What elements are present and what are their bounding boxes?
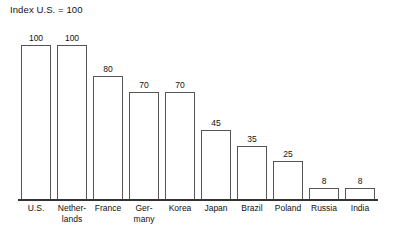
x-axis-tick-labels: U.S.Nether- landsFranceGer- manyKoreaJap… — [18, 203, 378, 239]
bar-korea: 70 — [165, 28, 195, 200]
bar-u-s: 100 — [21, 28, 51, 200]
bar-rect — [273, 161, 303, 200]
x-tick-brazil: Brazil — [234, 203, 270, 214]
bar-value-label: 8 — [322, 176, 327, 186]
bar-rect — [21, 45, 51, 200]
bar-rect — [165, 92, 195, 201]
bar-value-label: 100 — [65, 33, 79, 43]
bar-germany: 70 — [129, 28, 159, 200]
x-tick-korea: Korea — [162, 203, 198, 214]
x-tick-france: France — [90, 203, 126, 214]
bar-rect — [129, 92, 159, 201]
bar-chart: Index U.S. = 100 10010080707045352588 U.… — [0, 0, 394, 241]
bar-rect — [93, 76, 123, 200]
bar-value-label: 70 — [139, 80, 148, 90]
x-tick-u-s: U.S. — [18, 203, 54, 214]
bar-value-label: 100 — [29, 33, 43, 43]
bar-rect — [237, 146, 267, 200]
bar-brazil: 35 — [237, 28, 267, 200]
bar-value-label: 80 — [103, 64, 112, 74]
x-tick-russia: Russia — [306, 203, 342, 214]
bar-netherlands: 100 — [57, 28, 87, 200]
x-tick-germany: Ger- many — [126, 203, 162, 225]
bar-india: 8 — [345, 28, 375, 200]
bar-russia: 8 — [309, 28, 339, 200]
bar-rect — [201, 130, 231, 200]
bar-france: 80 — [93, 28, 123, 200]
bar-value-label: 8 — [358, 176, 363, 186]
x-tick-netherlands: Nether- lands — [54, 203, 90, 225]
x-tick-japan: Japan — [198, 203, 234, 214]
bar-poland: 25 — [273, 28, 303, 200]
bar-rect — [57, 45, 87, 200]
bar-japan: 45 — [201, 28, 231, 200]
x-tick-poland: Poland — [270, 203, 306, 214]
chart-title: Index U.S. = 100 — [10, 4, 83, 16]
x-axis-baseline — [18, 199, 378, 201]
plot-area: 10010080707045352588 — [18, 28, 378, 200]
bar-value-label: 45 — [211, 118, 220, 128]
x-tick-india: India — [342, 203, 378, 214]
bar-value-label: 35 — [247, 134, 256, 144]
bar-value-label: 25 — [283, 149, 292, 159]
bar-value-label: 70 — [175, 80, 184, 90]
